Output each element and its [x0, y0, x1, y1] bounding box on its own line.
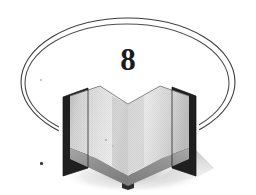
- chapter-ornament-artwork: [0, 0, 256, 195]
- book-page-left-gutter-shade: [112, 96, 128, 176]
- chapter-number: 8: [0, 44, 256, 75]
- open-book-illustration: [61, 86, 214, 193]
- page-speck: [112, 145, 113, 146]
- scan-speck-lower-left: [40, 162, 43, 165]
- scan-speck-upper-left: [40, 79, 42, 81]
- page-speck: [105, 139, 107, 141]
- chapter-opener-figure: 8: [0, 0, 256, 195]
- book-page-right-gutter-shade: [128, 96, 144, 176]
